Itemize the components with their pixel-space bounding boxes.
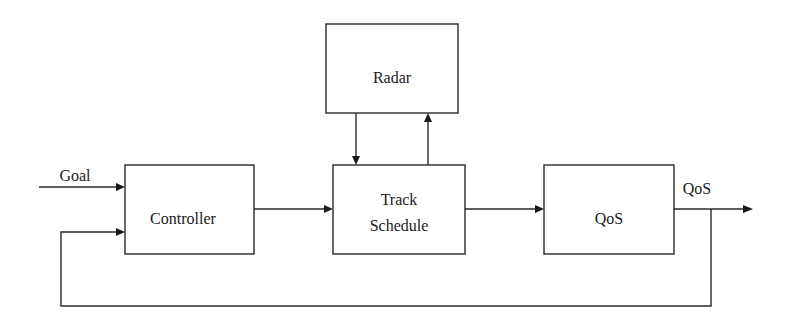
- goal-input-arrow: [39, 183, 125, 191]
- track-schedule-box: [333, 165, 465, 254]
- qos-block: QoS: [544, 165, 674, 254]
- arrowhead-icon: [535, 205, 544, 213]
- arrowhead-icon: [352, 156, 360, 165]
- radar-label: Radar: [373, 69, 412, 86]
- arrowhead-icon: [743, 205, 753, 213]
- controller-label: Controller: [150, 210, 216, 227]
- track-schedule-label-line2: Schedule: [370, 217, 429, 234]
- qos-output-label: QoS: [683, 180, 711, 197]
- arrowhead-icon: [324, 205, 333, 213]
- arrowhead-icon: [116, 183, 125, 191]
- controller-block: Controller: [125, 165, 254, 254]
- block-diagram: Radar Controller Track Schedule QoS Goal: [0, 0, 790, 326]
- radar-block: Radar: [326, 24, 458, 113]
- track-schedule-label-line1: Track: [381, 191, 418, 208]
- radar-to-track-arrow: [352, 113, 360, 165]
- track-to-radar-arrow: [424, 113, 432, 165]
- goal-label: Goal: [59, 167, 91, 184]
- controller-to-track-arrow: [254, 205, 333, 213]
- track-to-qos-arrow: [465, 205, 544, 213]
- arrowhead-icon: [424, 113, 432, 122]
- arrowhead-icon: [116, 228, 125, 236]
- track-schedule-block: Track Schedule: [333, 165, 465, 254]
- qos-output-arrow: [674, 205, 753, 213]
- qos-label: QoS: [595, 210, 623, 227]
